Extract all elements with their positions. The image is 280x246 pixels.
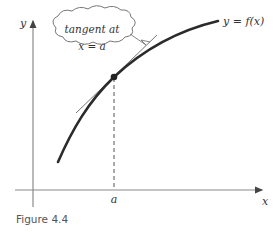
- diagram-canvas: tangent at x = a y x a y = f(x): [0, 0, 280, 246]
- callout-line-2: x = a: [78, 40, 106, 52]
- x-axis-label: x: [262, 195, 269, 208]
- tangent-point: [111, 74, 118, 81]
- curve-label: y = f(x): [222, 15, 264, 28]
- callout-line-1: tangent at: [65, 23, 121, 35]
- figure-caption: Figure 4.4: [16, 213, 68, 225]
- x-tick-label-a: a: [111, 193, 118, 206]
- tangent-figure: tangent at x = a y x a y = f(x) Figure 4…: [0, 0, 280, 246]
- y-axis-label: y: [19, 17, 27, 30]
